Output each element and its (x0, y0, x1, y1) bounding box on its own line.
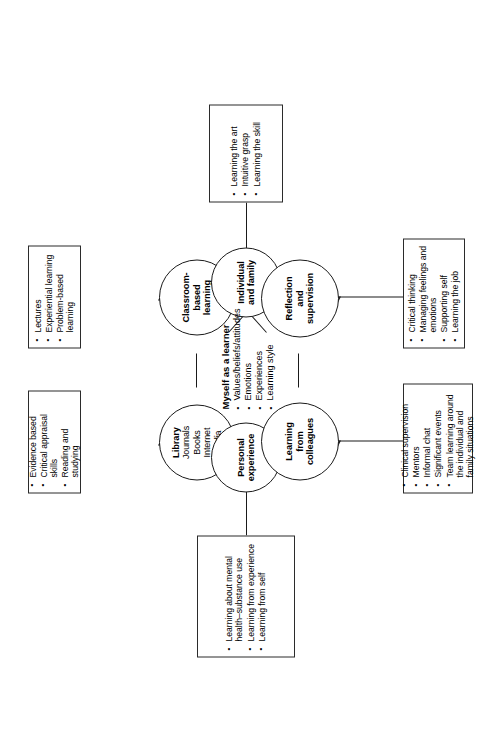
box-colleagues-bullet: Mentors (411, 389, 421, 487)
center-bullet: Learning style (265, 279, 276, 409)
link-library-classroom (196, 353, 197, 387)
box-individual-family-bullet: Intuitive grasp (240, 110, 250, 196)
box-library-bullet: Critical appraisal skills (39, 396, 59, 487)
box-classroom-list: Lectures Experiential learning Problem-b… (33, 251, 77, 342)
box-classroom-detail[interactable]: Lectures Experiential learning Problem-b… (28, 245, 81, 348)
center-bullet: Values/beliefs/attitudes (232, 279, 243, 409)
box-individual-family-bullet: Learning the skill (252, 110, 262, 196)
box-colleagues-bullet: Significant events (433, 389, 443, 487)
box-individual-family-list: Learning the art Intuitive grasp Learnin… (229, 110, 263, 196)
box-individual-family-bullet: Learning the art (229, 110, 239, 196)
box-reflection-bullet: Learning the job (450, 244, 460, 342)
box-individual-family-detail[interactable]: Learning the art Intuitive grasp Learnin… (209, 104, 283, 202)
node-learning-from-colleagues[interactable]: Learning from colleagues (261, 402, 339, 480)
node-learning-from-colleagues-title: Learning from colleagues (284, 412, 316, 470)
arrow-stem-individual (246, 202, 247, 254)
center-bullet: Emotions (243, 279, 254, 409)
box-personal-experience-detail[interactable]: Learning about mental health–substance u… (197, 535, 295, 657)
box-classroom-bullet: Problem-based learning (55, 251, 75, 342)
box-colleagues-detail[interactable]: Clinical supervision Mentors Informal ch… (403, 383, 473, 493)
box-reflection-list: Critical thinking Managing feelings and … (407, 244, 462, 342)
box-colleagues-bullet: Informal chat (422, 389, 432, 487)
node-library-item: Books (192, 425, 202, 458)
box-reflection-bullet: Supporting self (439, 244, 449, 342)
box-library-bullet: Reading and studying (60, 396, 80, 487)
node-library-item: Journals (181, 425, 191, 458)
center-bullet: Experiences (254, 279, 265, 409)
arrow-stem-colleagues (337, 440, 403, 441)
box-personal-experience-list: Learning about mental health–substance u… (224, 541, 268, 651)
node-personal-experience-title: Personal experience (236, 430, 257, 484)
box-colleagues-bullet: Clinical supervision (400, 389, 410, 487)
node-classroom-title: Classroom-based learning (181, 267, 213, 327)
box-colleagues-list: Clinical supervision Mentors Informal ch… (400, 389, 476, 487)
box-classroom-bullet: Lectures (33, 251, 43, 342)
box-personal-experience-bullet: Learning from self (257, 541, 267, 651)
box-reflection-bullet: Critical thinking (407, 244, 417, 342)
box-library-list: Evidence based Critical appraisal skills… (28, 396, 82, 487)
center-label-myself-as-a-learner: Myself as a learner Values/beliefs/attit… (220, 279, 276, 409)
node-reflection-and-supervision-title: Reflection and supervision (284, 268, 316, 328)
box-reflection-detail[interactable]: Critical thinking Managing feelings and … (403, 238, 465, 348)
link-colleagues-reflection (298, 353, 299, 387)
center-title: Myself as a learner (220, 279, 231, 409)
box-personal-experience-bullet: Learning from experience (246, 541, 256, 651)
node-library-title: Library (171, 427, 182, 458)
learning-model-diagram: Library Journals Books Internet Media Cl… (0, 0, 492, 741)
box-reflection-bullet: Managing feelings and emotions (418, 244, 438, 342)
center-bullet-list: Values/beliefs/attitudes Emotions Experi… (232, 279, 276, 409)
box-library-bullet: Evidence based (28, 396, 38, 487)
arrow-stem-reflection (337, 296, 403, 297)
box-library-detail[interactable]: Evidence based Critical appraisal skills… (28, 390, 81, 493)
box-classroom-bullet: Experiential learning (44, 251, 54, 342)
box-personal-experience-bullet: Learning about mental health–substance u… (224, 541, 244, 651)
box-colleagues-bullet: Team learning around the individual and … (445, 389, 476, 487)
